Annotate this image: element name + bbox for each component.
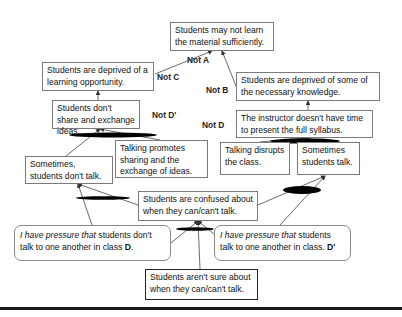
node-disrupts-text: Talking disrupts the class.	[225, 145, 285, 168]
label-not-d: Not D	[202, 120, 224, 130]
node-dont-talk-text: Sometimes, students don't talk.	[30, 159, 108, 182]
node-knowledge: Students are deprived of some of the nec…	[236, 72, 380, 101]
node-disrupts: Talking disrupts the class.	[220, 142, 290, 175]
pressure-d-italic: I have pressure that	[20, 230, 96, 240]
node-top: Students may not learn the material suff…	[170, 22, 274, 51]
node-pressure-dprime: I have pressure that students talk to on…	[214, 225, 351, 261]
node-syllabus-text: The instructor doesn't have time to pres…	[241, 113, 368, 136]
node-pressure-d: I have pressure that students don't talk…	[14, 225, 171, 261]
node-syllabus: The instructor doesn't have time to pres…	[236, 110, 373, 138]
node-confused-text: Students are confused about when they ca…	[143, 194, 253, 217]
node-talk: Sometimes students talk.	[297, 142, 360, 175]
node-dont-talk: Sometimes, students don't talk.	[25, 156, 113, 184]
node-opportunity: Students are deprived of a learning oppo…	[42, 62, 154, 91]
label-not-dprime: Not D'	[152, 110, 176, 120]
node-promotes: Talking promotes sharing and the exchang…	[115, 140, 208, 178]
node-top-text: Students may not learn the material suff…	[175, 25, 269, 48]
node-dont-share: Students don't share and exchange ideas.	[52, 100, 140, 129]
label-not-b: Not B	[206, 85, 228, 95]
pressure-d-tag: D	[125, 242, 131, 252]
node-opportunity-text: Students are deprived of a learning oppo…	[47, 65, 149, 88]
node-talk-text: Sometimes students talk.	[302, 145, 355, 168]
pressure-dprime-tag: D'	[327, 242, 335, 252]
node-knowledge-text: Students are deprived of some of the nec…	[241, 75, 375, 98]
bottom-divider	[0, 307, 402, 310]
pressure-dprime-italic: I have pressure that	[220, 230, 296, 240]
node-root: Students aren't sure about when they can…	[145, 269, 258, 300]
node-confused: Students are confused about when they ca…	[138, 191, 258, 221]
label-not-a: Not A	[187, 55, 209, 65]
node-root-text: Students aren't sure about when they can…	[150, 272, 253, 295]
node-dont-share-text: Students don't share and exchange ideas.	[57, 103, 135, 138]
label-not-c: Not C	[157, 72, 179, 82]
node-promotes-text: Talking promotes sharing and the exchang…	[120, 143, 203, 178]
